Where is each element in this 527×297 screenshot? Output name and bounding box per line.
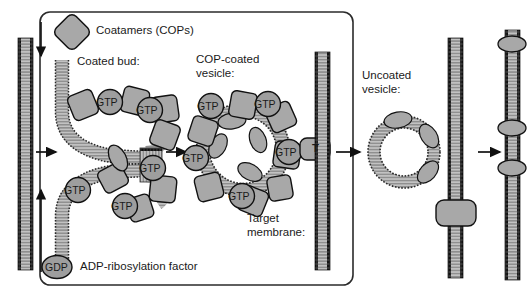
donor-membrane xyxy=(18,38,33,270)
legend-coatamers-label: Coatamers (COPs) xyxy=(96,24,194,37)
legend-arf-label: ADP-ribosylation factor xyxy=(80,260,198,273)
coatamer-diamond xyxy=(193,171,225,203)
acceptor-membrane xyxy=(436,38,476,278)
gtp-badge-label: GTP xyxy=(254,98,276,111)
label-target-membrane-line1: Target xyxy=(247,211,279,225)
fused-membrane xyxy=(498,30,526,280)
integrated-cargo xyxy=(498,160,526,176)
gtp-badge-label: GTP xyxy=(275,146,297,159)
t-snare-label: T xyxy=(312,142,319,155)
coatamer-diamond xyxy=(66,88,100,122)
integrated-cargo xyxy=(498,120,526,136)
legend-coatamer-icon xyxy=(52,12,92,52)
gtp-badge-label: GTP xyxy=(139,162,161,175)
label-uncoated-vesicle-line1: Uncoated xyxy=(362,68,411,82)
gtp-badge-label: GTP xyxy=(182,152,204,165)
gtp-badge-label: GTP xyxy=(228,190,250,203)
target-membrane xyxy=(315,52,330,270)
gtp-badge-label: GTP xyxy=(64,184,86,197)
label-target-membrane-line2: membrane: xyxy=(247,225,305,239)
label-coated-bud: Coated bud: xyxy=(77,55,140,68)
uncoated-vesicle xyxy=(368,110,443,188)
snare-complex-pad xyxy=(436,200,476,226)
label-cop-coated-vesicle-line2: vesicle: xyxy=(196,66,234,80)
figure-canvas: Coatamers (COPs) Coated bud: COP-coated … xyxy=(0,0,527,297)
coatamer-diamond xyxy=(266,174,294,202)
label-cop-coated-vesicle-line1: COP-coated xyxy=(196,52,259,66)
diagram-svg xyxy=(0,0,527,297)
gtp-badge-label: GTP xyxy=(197,100,219,113)
gtp-badge-label: GTP xyxy=(136,104,158,117)
integrated-cargo xyxy=(498,36,526,52)
gtp-badge-label: GTP xyxy=(96,96,118,109)
gtp-badge-label: GTP xyxy=(111,200,133,213)
gdp-badge-label: GDP xyxy=(45,261,68,274)
label-uncoated-vesicle-line2: vesicle: xyxy=(362,82,400,96)
